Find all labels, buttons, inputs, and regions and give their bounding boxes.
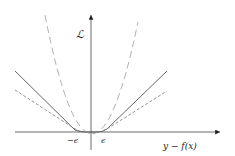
squared-loss-curve: [45, 15, 138, 134]
pos-epsilon-tick-label: ϵ: [101, 136, 106, 145]
x-axis-label: y − f(x): [162, 141, 197, 151]
loss-function-diagram: ℒ y − f(x) −ϵ ϵ: [0, 0, 235, 156]
neg-epsilon-tick-label: −ϵ: [67, 136, 79, 145]
y-axis-label: ℒ: [76, 28, 85, 41]
